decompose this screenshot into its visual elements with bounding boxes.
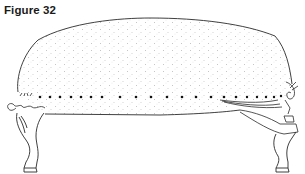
right-leg <box>274 132 296 172</box>
footstool-illustration <box>0 0 305 174</box>
left-leg <box>17 113 44 172</box>
stool-cover <box>18 18 292 115</box>
